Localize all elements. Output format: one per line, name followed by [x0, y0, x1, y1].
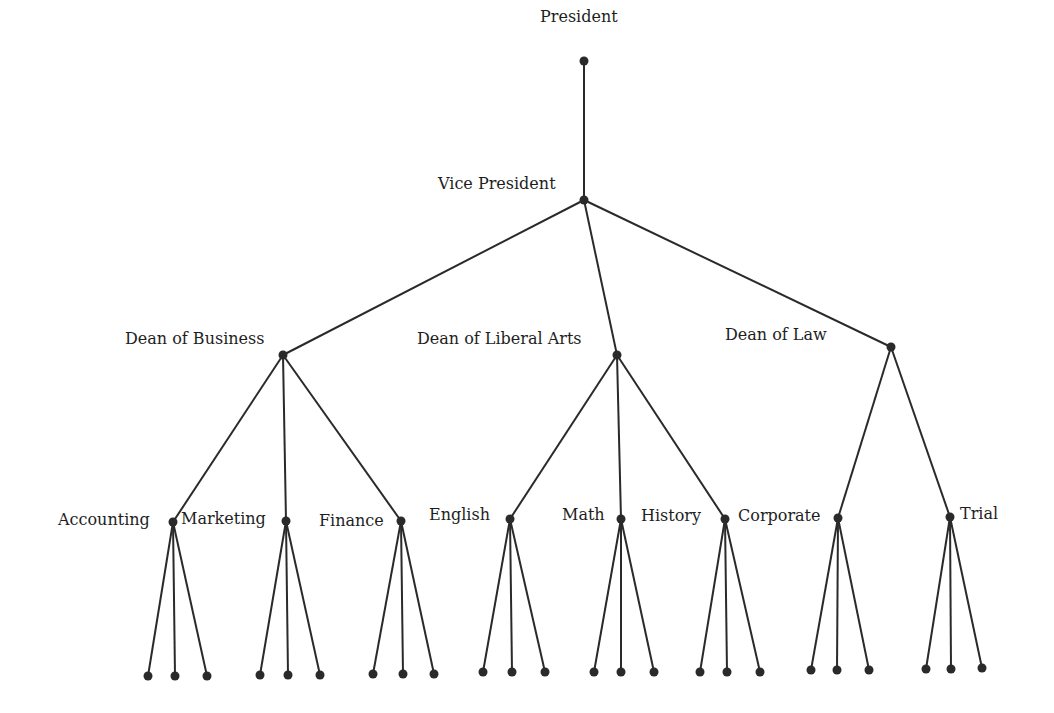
leaf-node [508, 668, 517, 677]
node-english [506, 515, 515, 524]
edge-math-leaf-0 [594, 519, 621, 672]
leaf-node [723, 668, 732, 677]
label-accounting: Accounting [58, 511, 150, 529]
leaf-node [590, 668, 599, 677]
edge-marketing-leaf-1 [286, 521, 288, 675]
edge-corporate-leaf-0 [811, 518, 838, 670]
node-finance [397, 517, 406, 526]
node-president [580, 57, 589, 66]
label-dean_business: Dean of Business [125, 330, 264, 348]
org-chart-tree [0, 0, 1054, 713]
edge-finance-leaf-0 [373, 521, 401, 674]
leaf-node [203, 672, 212, 681]
edge-history-leaf-1 [725, 519, 727, 672]
edge-dean_law-trial [891, 347, 950, 517]
label-marketing: Marketing [181, 510, 266, 528]
edge-dean_liberal_arts-math [617, 355, 621, 519]
leaf-node [316, 671, 325, 680]
node-history [721, 515, 730, 524]
node-trial [946, 513, 955, 522]
leaf-node [978, 664, 987, 673]
node-dean_law [887, 343, 896, 352]
edge-finance-leaf-1 [401, 521, 403, 674]
edge-dean_business-accounting [173, 355, 283, 522]
node-math [617, 515, 626, 524]
edge-dean_business-finance [283, 355, 401, 521]
label-math: Math [562, 506, 605, 524]
edge-marketing-leaf-0 [260, 521, 286, 675]
label-dean_liberal_arts: Dean of Liberal Arts [417, 330, 582, 348]
edge-accounting-leaf-2 [173, 522, 207, 676]
node-corporate [834, 514, 843, 523]
edge-english-leaf-2 [510, 519, 545, 672]
leaf-node [399, 670, 408, 679]
leaf-node [479, 668, 488, 677]
edge-accounting-leaf-1 [173, 522, 175, 676]
label-trial: Trial [960, 505, 998, 523]
edge-history-leaf-2 [725, 519, 760, 672]
edge-trial-leaf-2 [950, 517, 982, 668]
leaf-node [650, 668, 659, 677]
leaf-node [947, 665, 956, 674]
leaf-node [144, 672, 153, 681]
edge-corporate-leaf-1 [837, 518, 838, 670]
edge-english-leaf-0 [483, 519, 510, 672]
edge-trial-leaf-0 [926, 517, 950, 669]
leaf-node [369, 670, 378, 679]
edge-vp-dean_liberal_arts [584, 200, 617, 355]
node-dean_liberal_arts [613, 351, 622, 360]
node-marketing [282, 517, 291, 526]
leaf-node [833, 666, 842, 675]
leaf-node [256, 671, 265, 680]
edge-dean_business-marketing [283, 355, 286, 521]
edge-math-leaf-2 [621, 519, 654, 672]
edge-corporate-leaf-2 [838, 518, 869, 670]
label-finance: Finance [319, 512, 384, 530]
label-vp: Vice President [438, 175, 556, 193]
leaf-node [922, 665, 931, 674]
leaf-node [617, 668, 626, 677]
edge-dean_liberal_arts-history [617, 355, 725, 519]
leaf-node [284, 671, 293, 680]
leaf-node [865, 666, 874, 675]
edge-finance-leaf-2 [401, 521, 434, 674]
edge-marketing-leaf-2 [286, 521, 320, 675]
edge-accounting-leaf-0 [148, 522, 173, 676]
edge-dean_law-corporate [838, 347, 891, 518]
tree-edges [148, 61, 982, 676]
tree-nodes [144, 57, 987, 681]
node-vp [580, 196, 589, 205]
leaf-node [171, 672, 180, 681]
label-history: History [641, 507, 701, 525]
leaf-node [696, 668, 705, 677]
label-president: President [540, 8, 618, 26]
label-english: English [429, 506, 490, 524]
edge-english-leaf-1 [510, 519, 512, 672]
label-dean_law: Dean of Law [725, 326, 827, 344]
leaf-node [807, 666, 816, 675]
leaf-node [756, 668, 765, 677]
edge-history-leaf-0 [700, 519, 725, 672]
leaf-node [430, 670, 439, 679]
node-dean_business [279, 351, 288, 360]
label-corporate: Corporate [738, 507, 820, 525]
edge-trial-leaf-1 [950, 517, 951, 669]
edge-dean_liberal_arts-english [510, 355, 617, 519]
leaf-node [541, 668, 550, 677]
node-accounting [169, 518, 178, 527]
